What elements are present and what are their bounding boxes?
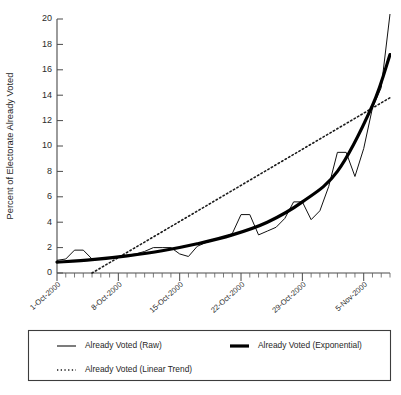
x-tick-label: 5-Nov-2000 [334,280,370,313]
legend-border [29,331,391,381]
y-axis-ticks: 02468101214161820 [42,13,63,277]
y-tick-label: 6 [47,191,52,201]
x-axis-minor-ticks [66,273,390,278]
x-tick-label: 1-Oct-2000 [28,280,62,312]
y-tick-label: 2 [47,242,52,252]
y-tick-label: 4 [47,217,52,227]
chart-container: Percent of Electorate Already Voted 0246… [0,0,401,395]
y-tick-label: 8 [47,166,52,176]
x-axis-major-ticks [57,273,364,281]
x-tick-label: 15-Oct-2000 [148,280,185,315]
y-tick-label: 0 [47,267,52,277]
y-tick-label: 12 [42,115,52,125]
series-exponential [57,55,390,263]
legend-label-exponential: Already Voted (Exponential) [258,340,362,350]
voting-trend-chart: Percent of Electorate Already Voted 0246… [0,0,401,395]
y-tick-label: 16 [42,64,52,74]
y-tick-label: 18 [42,39,52,49]
x-axis-tick-labels: 1-Oct-20008-Oct-200015-Oct-200022-Oct-20… [28,280,369,315]
y-tick-label: 10 [42,140,52,150]
y-tick-label: 20 [42,13,52,23]
legend-label-linear: Already Voted (Linear Trend) [85,364,192,374]
legend: Already Voted (Raw) Already Voted (Expon… [29,331,391,381]
x-tick-label: 22-Oct-2000 [209,280,246,315]
y-axis-title: Percent of Electorate Already Voted [5,73,15,220]
series-linear-trend [92,98,390,273]
series-raw [57,14,390,260]
y-tick-label: 14 [42,90,52,100]
plot-area [57,14,390,273]
x-tick-label: 29-Oct-2000 [270,280,307,315]
x-tick-label: 8-Oct-2000 [89,280,123,312]
legend-label-raw: Already Voted (Raw) [85,340,162,350]
